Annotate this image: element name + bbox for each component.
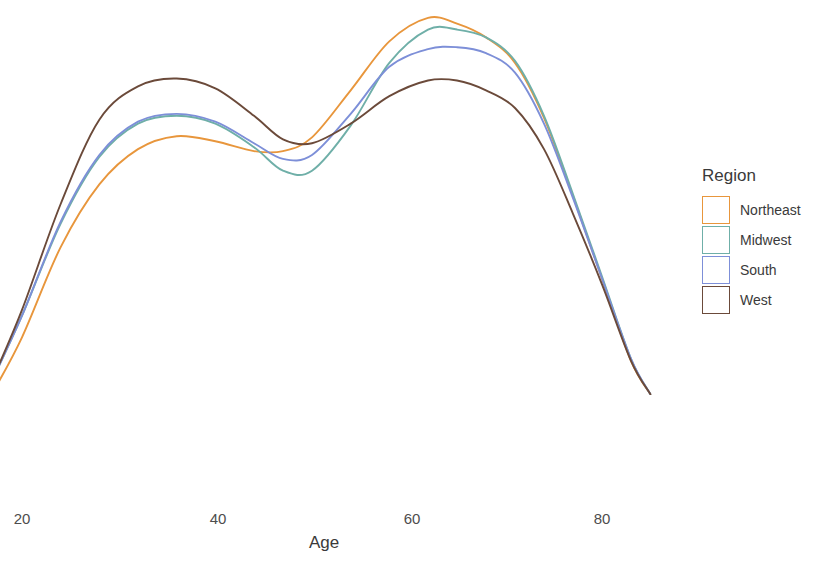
x-tick-label-40: 40	[198, 510, 238, 527]
legend-swatch-west	[702, 286, 730, 314]
legend-swatch-northeast	[702, 196, 730, 224]
legend-item-northeast[interactable]: Northeast	[698, 195, 832, 225]
legend-title: Region	[702, 166, 832, 186]
series-line-south	[0, 47, 650, 394]
legend-swatch-midwest	[702, 226, 730, 254]
legend-item-midwest[interactable]: Midwest	[698, 225, 832, 255]
legend-label: Midwest	[740, 232, 791, 248]
series-line-northeast	[0, 17, 650, 394]
legend-item-south[interactable]: South	[698, 255, 832, 285]
legend-item-west[interactable]: West	[698, 285, 832, 315]
legend-swatch-south	[702, 256, 730, 284]
x-axis-title: Age	[0, 533, 648, 553]
legend: Region NortheastMidwestSouthWest	[698, 166, 832, 315]
legend-label: South	[740, 262, 777, 278]
legend-label: West	[740, 292, 772, 308]
x-tick-label-60: 60	[392, 510, 432, 527]
legend-items: NortheastMidwestSouthWest	[698, 195, 832, 315]
series-line-west	[0, 79, 650, 395]
series-line-midwest	[0, 27, 650, 394]
density-chart: 20 40 60 80 Age Region NortheastMidwestS…	[0, 0, 832, 564]
x-tick-label-80: 80	[582, 510, 622, 527]
legend-label: Northeast	[740, 202, 801, 218]
x-tick-label-20: 20	[2, 510, 42, 527]
